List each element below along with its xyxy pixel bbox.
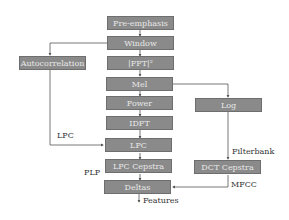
- features-label: Features: [143, 196, 179, 206]
- autocorrelation-box: Autocorrelation: [19, 56, 86, 70]
- power-box: Power: [106, 96, 173, 110]
- filterbank-label: Filterbank: [232, 147, 274, 157]
- lpc-cepstra-box: LPC Cepstra: [105, 159, 172, 173]
- idft-box: IDFT: [106, 116, 173, 130]
- dct-cepstra-box: DCT Cepstra: [194, 160, 261, 174]
- mfcc-label: MFCC: [231, 180, 257, 190]
- lpc-box: LPC: [105, 138, 172, 152]
- lpc-label: LPC: [57, 131, 74, 141]
- pre-emphasis-box: Pre-emphasis: [107, 16, 174, 30]
- mel-box: Mel: [106, 77, 173, 91]
- plp-label: PLP: [84, 168, 100, 178]
- deltas-box: Deltas: [104, 180, 171, 194]
- window-box: Window: [107, 36, 174, 50]
- log-box: Log: [195, 98, 262, 112]
- fft-box: |FFT|²: [107, 56, 174, 70]
